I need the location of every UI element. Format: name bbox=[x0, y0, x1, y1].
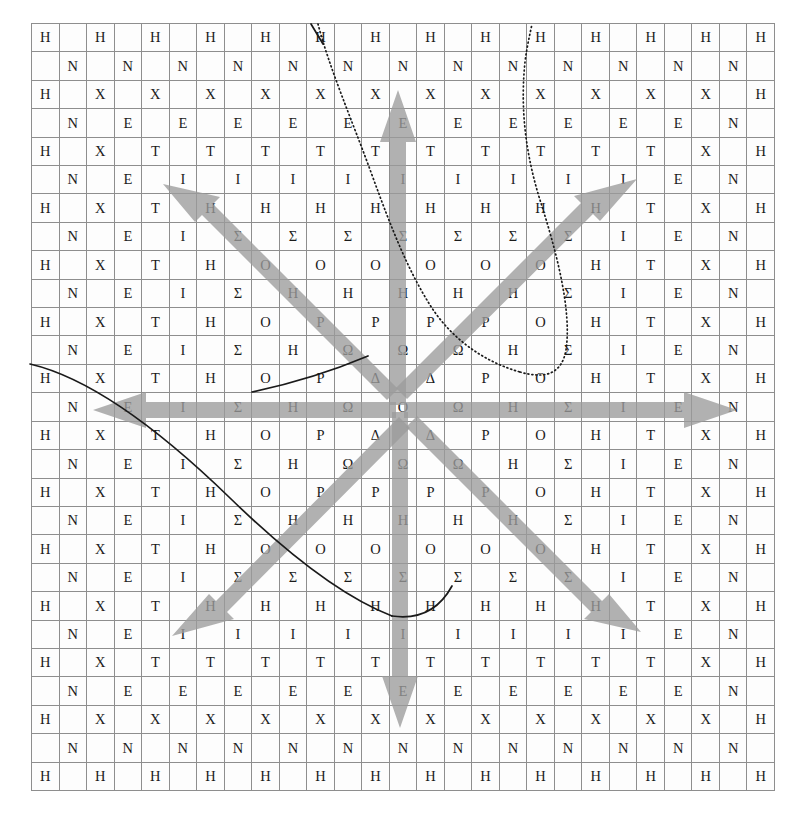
grid-letter: H bbox=[40, 541, 50, 556]
grid-cell: I bbox=[610, 336, 637, 363]
grid-letter: H bbox=[590, 200, 600, 215]
grid-cell: X bbox=[307, 706, 334, 733]
grid-cell bbox=[280, 308, 307, 335]
grid-cell: E bbox=[115, 507, 142, 534]
grid-letter: T bbox=[151, 484, 160, 499]
grid-letter: X bbox=[260, 712, 270, 727]
grid-cell: I bbox=[335, 166, 362, 193]
grid-cell: N bbox=[720, 677, 747, 704]
grid-cell bbox=[32, 109, 59, 136]
grid-letter: H bbox=[40, 144, 50, 159]
grid-cell bbox=[417, 564, 444, 591]
grid-cell: H bbox=[87, 763, 114, 790]
grid-cell bbox=[472, 52, 499, 79]
grid-letter: Σ bbox=[509, 570, 517, 585]
grid-cell bbox=[500, 649, 527, 676]
grid-cell bbox=[665, 194, 692, 221]
grid-letter: Σ bbox=[234, 229, 242, 244]
grid-cell bbox=[197, 677, 224, 704]
grid-letter: N bbox=[68, 58, 78, 73]
grid-letter: O bbox=[260, 314, 270, 329]
grid-letter: H bbox=[40, 712, 50, 727]
grid-cell bbox=[335, 649, 362, 676]
grid-cell bbox=[637, 507, 664, 534]
grid-letter: E bbox=[454, 683, 463, 698]
grid-cell: H bbox=[747, 535, 774, 562]
grid-cell: N bbox=[445, 734, 472, 761]
grid-letter: E bbox=[674, 570, 683, 585]
grid-cell bbox=[720, 706, 747, 733]
grid-letter: E bbox=[564, 115, 573, 130]
grid-cell bbox=[472, 621, 499, 648]
grid-letter: Σ bbox=[399, 570, 407, 585]
grid-letter: N bbox=[178, 58, 188, 73]
grid-cell bbox=[225, 763, 252, 790]
grid-letter: T bbox=[426, 144, 435, 159]
grid-letter: X bbox=[700, 484, 710, 499]
grid-cell: E bbox=[390, 677, 417, 704]
grid-letter: Σ bbox=[564, 286, 572, 301]
grid-cell bbox=[665, 365, 692, 392]
grid-letter: X bbox=[205, 712, 215, 727]
grid-letter: H bbox=[343, 513, 353, 528]
grid-cell: N bbox=[60, 564, 87, 591]
grid-cell bbox=[720, 251, 747, 278]
grid-cell bbox=[170, 24, 197, 51]
grid-cell bbox=[390, 308, 417, 335]
grid-letter: X bbox=[315, 712, 325, 727]
grid-letter: H bbox=[535, 30, 545, 45]
grid-cell bbox=[692, 336, 719, 363]
grid-cell bbox=[472, 507, 499, 534]
grid-cell bbox=[252, 564, 279, 591]
grid-cell: X bbox=[87, 479, 114, 506]
grid-cell bbox=[197, 393, 224, 420]
grid-cell bbox=[115, 479, 142, 506]
grid-letter: N bbox=[618, 740, 628, 755]
grid-cell: I bbox=[610, 166, 637, 193]
grid-letter: Σ bbox=[454, 229, 462, 244]
grid-letter: E bbox=[674, 286, 683, 301]
grid-cell: X bbox=[527, 81, 554, 108]
grid-letter: E bbox=[178, 115, 187, 130]
grid-cell: N bbox=[60, 280, 87, 307]
grid-letter: I bbox=[621, 172, 626, 187]
grid-letter: I bbox=[180, 456, 185, 471]
grid-cell bbox=[60, 24, 87, 51]
grid-cell bbox=[610, 763, 637, 790]
grid-cell bbox=[472, 166, 499, 193]
grid-cell: T bbox=[142, 138, 169, 165]
grid-letter: Σ bbox=[344, 229, 352, 244]
grid-cell: H bbox=[582, 365, 609, 392]
grid-cell: H bbox=[142, 763, 169, 790]
grid-letter: E bbox=[399, 115, 408, 130]
grid-cell bbox=[665, 24, 692, 51]
grid-cell: E bbox=[280, 677, 307, 704]
grid-letter: I bbox=[566, 172, 571, 187]
grid-cell bbox=[280, 535, 307, 562]
grid-cell bbox=[60, 592, 87, 619]
grid-cell bbox=[417, 393, 444, 420]
grid-cell bbox=[610, 251, 637, 278]
grid-cell bbox=[87, 734, 114, 761]
grid-cell: I bbox=[610, 507, 637, 534]
grid-cell bbox=[747, 52, 774, 79]
grid-letter: O bbox=[535, 541, 545, 556]
grid-letter: P bbox=[316, 371, 324, 386]
grid-cell bbox=[142, 52, 169, 79]
grid-letter: N bbox=[288, 58, 298, 73]
grid-letter: X bbox=[700, 314, 710, 329]
grid-letter: O bbox=[315, 541, 325, 556]
grid-cell bbox=[307, 280, 334, 307]
grid-letter: H bbox=[755, 30, 765, 45]
grid-cell bbox=[280, 479, 307, 506]
grid-letter: H bbox=[453, 513, 463, 528]
grid-letter: H bbox=[95, 30, 105, 45]
grid-letter: E bbox=[344, 115, 353, 130]
grid-cell bbox=[527, 621, 554, 648]
grid-cell: N bbox=[665, 52, 692, 79]
grid-cell: O bbox=[252, 251, 279, 278]
grid-letter: H bbox=[453, 286, 463, 301]
grid-cell bbox=[362, 109, 389, 136]
grid-letter: H bbox=[315, 30, 325, 45]
grid-cell: T bbox=[142, 649, 169, 676]
